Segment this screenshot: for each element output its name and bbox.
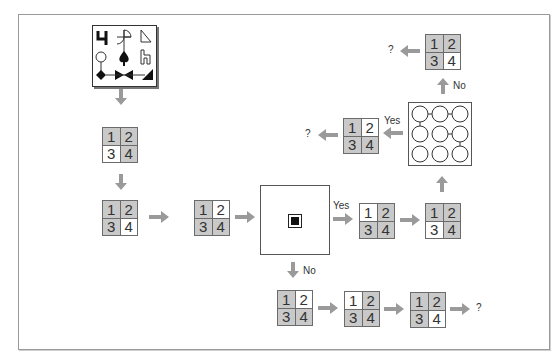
grid-left-1: 1 2 3 4 [102,127,138,163]
arrow-down-icon [115,174,127,190]
cell-4: 4 [378,222,395,239]
cell-2: 2 [121,201,138,218]
cell-4: 4 [444,53,461,70]
cell-2: 2 [444,35,461,52]
no-label: No [453,80,466,91]
cell-1: 1 [426,204,443,221]
cell-2: 2 [429,293,446,310]
grid-left-2: 1 2 3 4 [102,200,138,236]
symbol-panel [92,25,157,87]
arrow-right-icon [400,214,420,226]
cell-2: 2 [444,204,461,221]
arrow-right-icon [149,211,169,223]
grid-yes-2: 1 2 3 4 [425,203,461,239]
no-label: No [303,265,316,276]
cell-3: 3 [278,309,295,326]
cell-4: 4 [429,311,446,328]
cell-3: 3 [345,310,362,327]
cell-4: 4 [296,309,313,326]
cell-4: 4 [444,222,461,239]
cell-4: 4 [362,137,379,154]
question-mark: ? [388,44,394,55]
cell-3: 3 [360,222,377,239]
arrow-up-icon [437,78,449,94]
cell-2: 2 [121,128,138,145]
grid-bottom-3: 1 2 3 4 [410,292,446,328]
cell-1: 1 [195,201,212,218]
cell-3: 3 [411,311,428,328]
cell-3: 3 [103,219,120,236]
cell-1: 1 [426,35,443,52]
cell-1: 1 [103,128,120,145]
cell-3: 3 [195,219,212,236]
question-mark: ? [305,128,311,139]
arrow-down-icon [115,89,127,105]
arrow-right-icon [318,302,338,314]
arrow-right-icon [235,211,255,223]
cell-1: 1 [103,201,120,218]
grid-bottom-2: 1 2 3 4 [344,291,380,327]
grid-top: 1 2 3 4 [425,34,461,70]
arrow-down-icon [287,262,299,278]
cell-1: 1 [345,292,362,309]
cell-3: 3 [426,222,443,239]
grid-upper-left: 1 2 3 4 [343,118,379,154]
symbols-icon [93,26,156,86]
cell-2: 2 [362,119,379,136]
cell-1: 1 [360,204,377,221]
cell-4: 4 [121,219,138,236]
circle-grid-box [408,102,472,166]
arrow-right-icon [384,303,404,315]
cell-3: 3 [103,146,120,163]
cell-4: 4 [363,310,380,327]
arrow-left-icon [400,45,420,57]
cell-2: 2 [213,201,230,218]
cell-3: 3 [344,137,361,154]
yes-label: Yes [333,200,349,211]
arrow-left-icon [383,127,403,139]
cell-4: 4 [121,146,138,163]
cell-2: 2 [378,204,395,221]
circle-grid-icon [409,103,471,165]
cell-1: 1 [344,119,361,136]
cell-1: 1 [411,293,428,310]
arrow-right-icon [333,213,353,225]
cell-2: 2 [363,292,380,309]
cell-4: 4 [213,219,230,236]
arrow-up-icon [436,176,448,192]
yes-label: Yes [384,115,400,126]
cell-3: 3 [426,53,443,70]
arrow-right-icon [450,303,470,315]
arrow-left-icon [318,129,338,141]
grid-mid-1: 1 2 3 4 [194,200,230,236]
grid-bottom-1: 1 2 3 4 [277,290,313,326]
grid-yes-1: 1 2 3 4 [359,203,395,239]
cell-1: 1 [278,291,295,308]
question-mark: ? [476,302,482,313]
target-square-icon [288,214,302,228]
cell-2: 2 [296,291,313,308]
decision-box-center [260,185,330,255]
